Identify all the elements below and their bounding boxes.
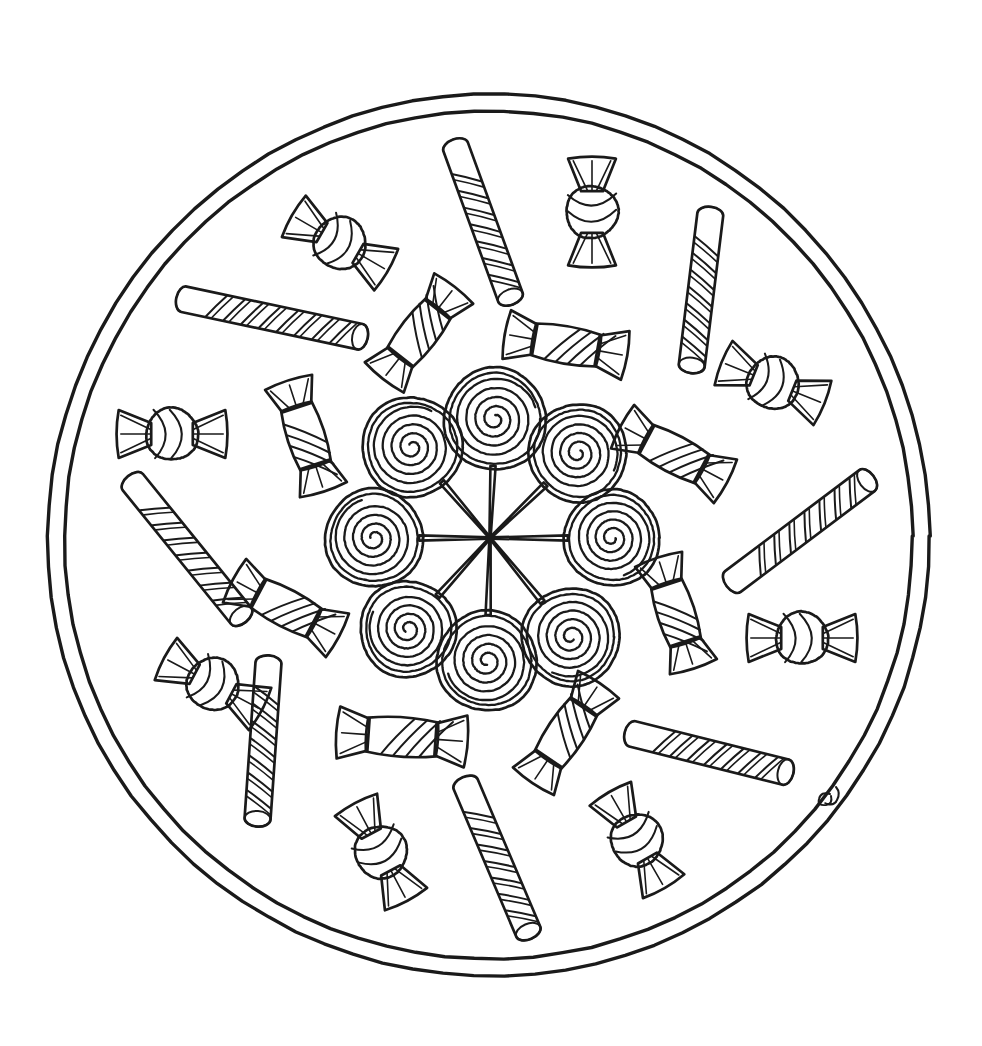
candy-mandala-artboard bbox=[0, 0, 982, 1046]
lollipop-hub-node bbox=[486, 534, 494, 542]
